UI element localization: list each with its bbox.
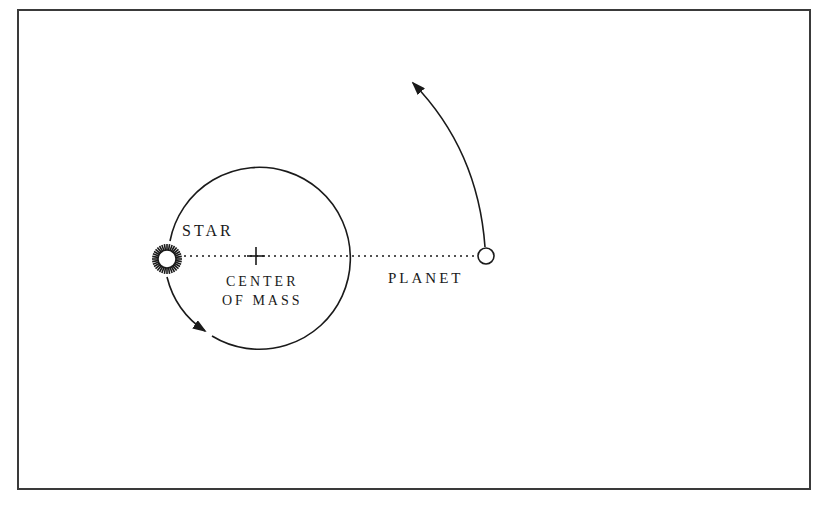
- center-of-mass-cross-icon: [247, 247, 265, 265]
- planet-orbit-arrow: [413, 83, 485, 247]
- star-orbit-path: [167, 277, 205, 331]
- center-of-mass-label: CENTER OF MASS: [222, 272, 303, 310]
- star-orbit-circle: [170, 167, 350, 349]
- center-of-mass-label-line2: OF MASS: [222, 291, 303, 310]
- star-core: [158, 250, 176, 268]
- planet-label: PLANET: [388, 270, 464, 287]
- star-label: STAR: [182, 222, 234, 239]
- orbit-diagram: STAR CENTER OF MASS PLANET: [0, 0, 823, 506]
- center-of-mass-label-line1: CENTER: [222, 272, 303, 291]
- orbit-diagram-graphics: [0, 0, 823, 506]
- planet-circle-icon: [478, 248, 494, 264]
